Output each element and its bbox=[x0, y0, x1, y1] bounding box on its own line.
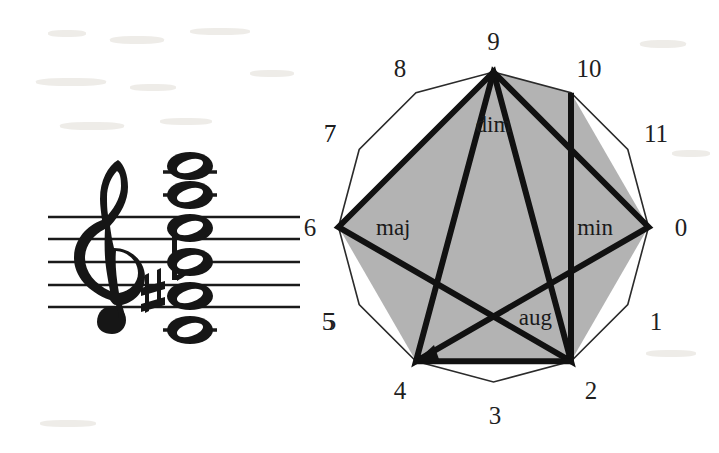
vertex-label-6-left: 6 bbox=[304, 214, 317, 241]
pitch-class-clock-svg: dim maj min aug 0 1 2 3 4 5 6 7 8 9 10 1… bbox=[330, 0, 719, 453]
notehead bbox=[167, 214, 213, 242]
left-vertex-labels-svg: 7 6 5 bbox=[280, 0, 350, 453]
chord-label-aug: aug bbox=[519, 305, 553, 330]
vertex-label-10: 10 bbox=[577, 55, 602, 82]
notehead bbox=[167, 152, 213, 180]
notehead bbox=[167, 282, 213, 310]
vertex-label-5-left: 5 bbox=[322, 308, 335, 335]
vertex-label-9: 9 bbox=[487, 28, 500, 55]
notehead bbox=[167, 181, 213, 209]
notehead bbox=[167, 316, 213, 344]
vertex-label-0: 0 bbox=[675, 214, 688, 241]
chord-label-dim: dim bbox=[476, 112, 512, 137]
vertex-label-4: 4 bbox=[394, 377, 407, 404]
vertex-label-8: 8 bbox=[394, 55, 407, 82]
vertex-label-1: 1 bbox=[650, 308, 663, 335]
chord-label-min: min bbox=[577, 215, 613, 240]
polygon-panel: dim maj min aug 0 1 2 3 4 5 6 7 8 9 10 1… bbox=[330, 0, 719, 453]
vertex-label-2: 2 bbox=[585, 377, 598, 404]
notehead bbox=[167, 248, 213, 276]
figure-root: dim maj min aug 0 1 2 3 4 5 6 7 8 9 10 1… bbox=[0, 0, 719, 453]
vertex-label-7-left: 7 bbox=[324, 120, 337, 147]
vertex-label-11: 11 bbox=[644, 120, 668, 147]
chord-label-maj: maj bbox=[376, 215, 411, 240]
vertex-label-3: 3 bbox=[489, 402, 502, 429]
